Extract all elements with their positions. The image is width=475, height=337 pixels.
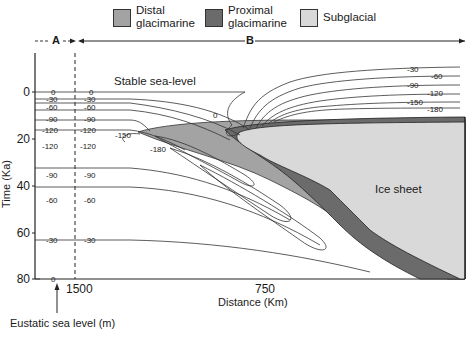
svg-text:-60: -60 xyxy=(46,103,58,112)
subglacial-ice-sheet xyxy=(237,122,465,279)
xtick-750: 750 xyxy=(255,282,275,296)
svg-text:-30: -30 xyxy=(46,236,58,245)
svg-text:-30: -30 xyxy=(84,236,96,245)
xtick-1500: 1500 xyxy=(66,282,93,296)
zone-a-label: A xyxy=(52,34,60,46)
stable-sea-level-label: Stable sea-level xyxy=(114,75,196,87)
svg-text:0: 0 xyxy=(51,275,56,284)
svg-text:-60: -60 xyxy=(431,72,443,81)
ytick-0: 0 xyxy=(0,85,30,99)
svg-text:-120: -120 xyxy=(42,126,59,135)
svg-text:-60: -60 xyxy=(84,103,96,112)
y-axis-label: Time (Ka) xyxy=(0,160,12,208)
svg-text:0: 0 xyxy=(213,111,218,120)
svg-text:-150: -150 xyxy=(115,131,132,140)
ytick-60: 60 xyxy=(0,226,30,240)
svg-text:-180: -180 xyxy=(150,145,167,154)
svg-text:-120: -120 xyxy=(427,89,444,98)
svg-text:-180: -180 xyxy=(427,105,444,114)
svg-text:-90: -90 xyxy=(84,115,96,124)
svg-text:-120: -120 xyxy=(80,142,97,151)
x-axis-label: Distance (Km) xyxy=(218,296,288,308)
svg-text:-120: -120 xyxy=(42,142,59,151)
svg-text:-90: -90 xyxy=(407,81,419,90)
svg-text:-90: -90 xyxy=(84,171,96,180)
ytick-20: 20 xyxy=(0,132,30,146)
svg-text:-150: -150 xyxy=(407,98,424,107)
svg-text:-30: -30 xyxy=(407,65,419,74)
svg-text:-90: -90 xyxy=(46,115,58,124)
svg-text:-60: -60 xyxy=(46,196,58,205)
svg-text:-90: -90 xyxy=(46,171,58,180)
zone-b-label: B xyxy=(245,34,255,46)
eustatic-sea-level-label: Eustatic sea level (m) xyxy=(10,317,115,329)
zone-b-arrowhead-left xyxy=(78,39,84,44)
zone-a-arrowhead xyxy=(70,39,76,44)
ytick-80: 80 xyxy=(0,272,30,286)
ice-sheet-label: Ice sheet xyxy=(375,183,422,195)
svg-text:-60: -60 xyxy=(84,196,96,205)
zone-b-arrowhead-right xyxy=(459,39,465,44)
svg-text:-120: -120 xyxy=(80,126,97,135)
